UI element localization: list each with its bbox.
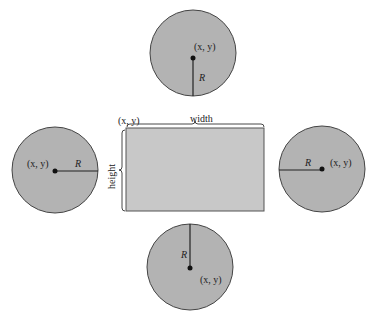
- width-brace: [127, 121, 264, 127]
- circle-top-center-dot: [191, 56, 196, 61]
- circle-right: (x, y) R: [279, 126, 365, 212]
- rectangle-shape: [126, 128, 264, 211]
- circle-left: (x, y) R: [12, 127, 98, 213]
- circle-right-center-label: (x, y): [330, 157, 352, 169]
- circle-top-center-label: (x, y): [194, 41, 216, 53]
- circle-bottom-center-dot: [188, 266, 193, 271]
- circle-left-center-dot: [53, 169, 58, 174]
- circle-bottom: R (x, y): [147, 224, 233, 310]
- height-brace: [119, 130, 125, 211]
- circle-bottom-center-label: (x, y): [200, 274, 222, 286]
- circle-bottom-radius-label: R: [180, 249, 187, 260]
- rect-width-label: width: [190, 113, 213, 124]
- rect-corner-label: (x, y): [118, 115, 140, 127]
- circle-top-radius-label: R: [198, 72, 205, 83]
- circle-right-radius-label: R: [304, 157, 311, 168]
- rectangle-group: (x, y) width height: [106, 113, 264, 211]
- shape-diagram: (x, y) R (x, y) width height (x, y) R (x…: [0, 0, 374, 318]
- circle-top: (x, y) R: [150, 10, 236, 96]
- circle-left-center-label: (x, y): [27, 158, 49, 170]
- circle-right-center-dot: [320, 167, 325, 172]
- circle-left-radius-label: R: [74, 158, 81, 169]
- rect-height-label: height: [106, 164, 117, 189]
